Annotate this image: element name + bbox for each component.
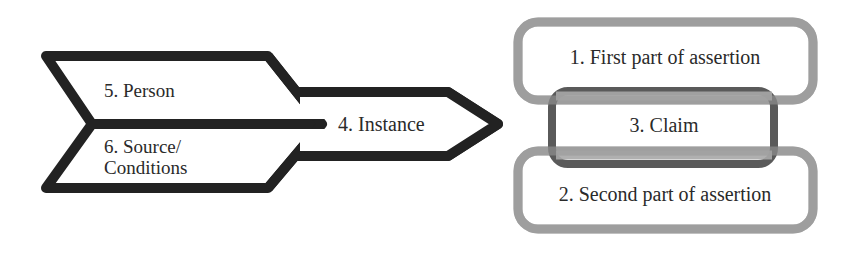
argument-diagram: 5. Person 6. Source/ Conditions 4. Insta…	[0, 0, 865, 255]
person-label: 5. Person	[104, 80, 175, 101]
second-part-label: 2. Second part of assertion	[559, 183, 772, 206]
first-part-label: 1. First part of assertion	[570, 46, 761, 69]
source-label-line1: 6. Source/	[104, 136, 182, 157]
instance-label: 4. Instance	[338, 113, 425, 135]
claim-label: 3. Claim	[630, 114, 699, 136]
assertion-group: 1. First part of assertion 3. Claim 2. S…	[518, 22, 813, 229]
instance-arrow: 5. Person 6. Source/ Conditions 4. Insta…	[46, 56, 498, 188]
source-label-line2: Conditions	[104, 157, 187, 178]
